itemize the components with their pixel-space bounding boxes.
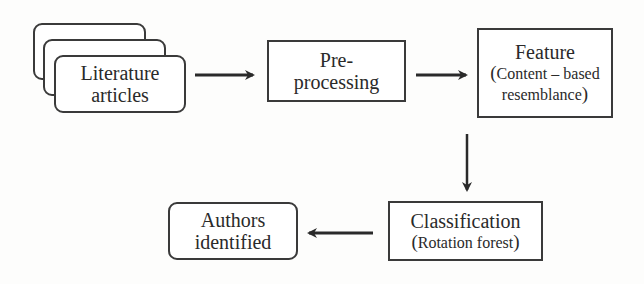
feature-title: Feature bbox=[515, 41, 575, 63]
literature-articles-node: Literature articles bbox=[54, 55, 186, 113]
preprocessing-label-line2: processing bbox=[294, 71, 380, 93]
classification-node: Classification (Rotation forest) bbox=[388, 201, 543, 261]
authors-label-line2: identified bbox=[195, 231, 272, 253]
literature-label-line1: Literature bbox=[81, 62, 160, 84]
preprocessing-label-line1: Pre- bbox=[320, 49, 353, 71]
authors-label-line1: Authors bbox=[201, 209, 265, 231]
preprocessing-node: Pre- processing bbox=[267, 40, 406, 102]
classification-subtitle: (Rotation forest) bbox=[411, 232, 519, 253]
feature-subtitle-line2: resemblance) bbox=[502, 84, 588, 105]
feature-subtitle-line1: (Content – based bbox=[490, 63, 599, 84]
authors-identified-node: Authors identified bbox=[168, 202, 298, 260]
literature-label-line2: articles bbox=[91, 84, 149, 106]
feature-node: Feature (Content – based resemblance) bbox=[477, 28, 613, 118]
classification-title: Classification bbox=[411, 210, 521, 232]
